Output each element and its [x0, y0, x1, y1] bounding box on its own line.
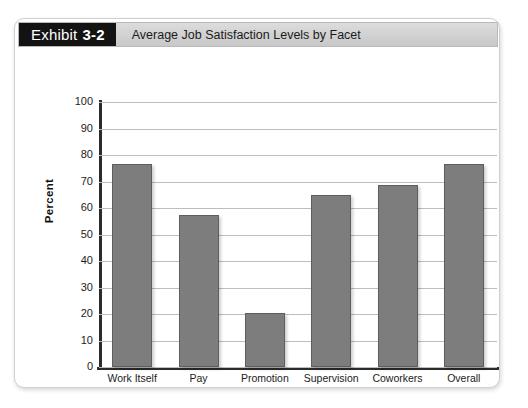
y-axis-tick: 0 [59, 360, 93, 372]
y-axis-tick: 10 [59, 334, 93, 346]
bar-supervision [311, 195, 351, 367]
y-axis-tick: 80 [59, 148, 93, 160]
y-axis-tick: 90 [59, 122, 93, 134]
exhibit-card: Exhibit 3-2 Average Job Satisfaction Lev… [14, 18, 500, 388]
gridline [99, 129, 497, 130]
y-axis-tick: 30 [59, 281, 93, 293]
y-axis-tick: 20 [59, 307, 93, 319]
x-axis-category-label: Overall [417, 372, 511, 384]
exhibit-tag-number: 3-2 [82, 26, 104, 43]
exhibit-header: Exhibit 3-2 Average Job Satisfaction Lev… [18, 22, 498, 47]
bar-work-itself [112, 164, 152, 367]
y-axis-tick: 40 [59, 254, 93, 266]
y-axis-label: Percent [43, 161, 55, 241]
gridline [99, 235, 497, 236]
gridline [99, 102, 497, 103]
bar-pay [179, 215, 219, 367]
bar-overall [444, 164, 484, 367]
bar-chart: Percent 1009080706050403020100 Work Itse… [15, 47, 499, 387]
y-axis-tick: 100 [59, 95, 93, 107]
gridline [99, 155, 497, 156]
bar-coworkers [378, 185, 418, 367]
exhibit-title: Average Job Satisfaction Levels by Facet [116, 23, 361, 46]
gridline [99, 314, 497, 315]
gridline [99, 208, 497, 209]
y-axis-tick: 50 [59, 228, 93, 240]
gridline [99, 367, 497, 368]
gridline [99, 182, 497, 183]
y-axis-tick: 60 [59, 201, 93, 213]
gridline [99, 288, 497, 289]
y-axis-tick: 70 [59, 175, 93, 187]
gridline [99, 341, 497, 342]
gridline [99, 261, 497, 262]
y-axis-tick-labels: 1009080706050403020100 [55, 102, 93, 367]
exhibit-tag: Exhibit 3-2 [19, 23, 116, 46]
plot-area [99, 102, 497, 367]
exhibit-tag-label: Exhibit [31, 26, 77, 43]
bar-promotion [245, 313, 285, 367]
